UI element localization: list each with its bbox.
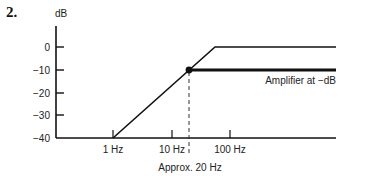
x-tick-1hz: 1 Hz [103,144,124,155]
y-tick-30: −30 [33,110,50,121]
knee-point [186,67,193,74]
y-tick-10: −10 [33,65,50,76]
y-tick-20: −20 [33,88,50,99]
y-axis-unit: dB [55,8,68,19]
y-tick-0: 0 [44,42,50,53]
x-tick-10hz: 10 Hz [159,144,185,155]
approx-20hz-label: Approx. 20 Hz [158,162,221,173]
response-curve [113,47,336,138]
amplifier-label: Amplifier at −dB [265,75,336,86]
x-ticks [113,130,230,138]
y-tick-40: −40 [33,133,50,144]
frequency-response-chart: dB 0 −10 −20 −30 −40 1 Hz 10 Hz 100 Hz A… [0,0,373,182]
y-ticks [56,47,64,115]
x-tick-100hz: 100 Hz [214,144,246,155]
